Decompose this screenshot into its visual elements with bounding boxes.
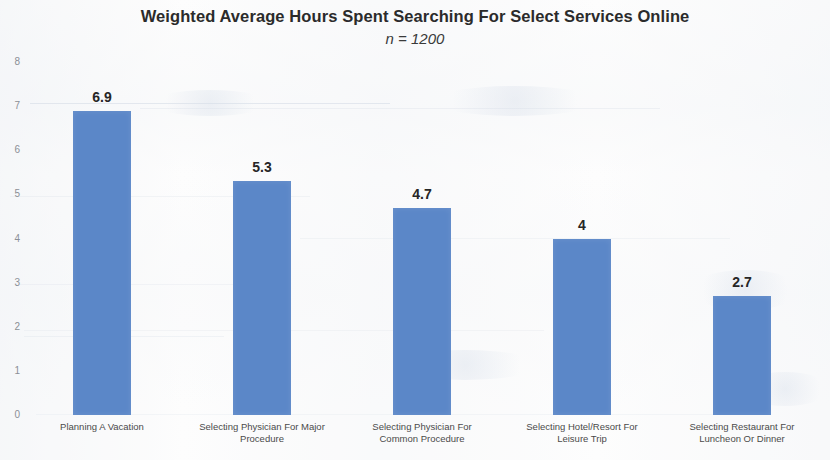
x-axis-category-label: Selecting Physician ForCommon Procedure xyxy=(338,421,506,445)
bar-chart-figure: Weighted Average Hours Spent Searching F… xyxy=(0,0,830,460)
bar-group: 4 xyxy=(502,62,662,415)
bar[interactable] xyxy=(553,239,611,416)
y-axis-tick-label: 2 xyxy=(0,322,20,332)
category-label-line: Common Procedure xyxy=(338,433,506,445)
bar-group: 6.9 xyxy=(22,62,182,415)
category-label-line: Procedure xyxy=(178,433,346,445)
category-label-line: Leisure Trip xyxy=(498,433,666,445)
x-axis-category-label: Selecting Physician For MajorProcedure xyxy=(178,421,346,445)
y-axis-tick-label: 7 xyxy=(0,101,20,111)
y-axis: 876543210 xyxy=(0,62,20,415)
bar-group: 5.3 xyxy=(182,62,342,415)
category-label-line: Selecting Physician For xyxy=(338,421,506,433)
chart-title: Weighted Average Hours Spent Searching F… xyxy=(0,6,830,27)
category-label-line: Luncheon Or Dinner xyxy=(658,433,826,445)
bar-value-label: 5.3 xyxy=(182,160,342,175)
bar-value-label: 4 xyxy=(502,218,662,233)
bar-value-label: 2.7 xyxy=(662,275,822,290)
category-label-line: Planning A Vacation xyxy=(18,421,186,433)
y-axis-tick-label: 5 xyxy=(0,189,20,199)
bar-value-label: 6.9 xyxy=(22,90,182,105)
y-axis-tick-label: 6 xyxy=(0,145,20,155)
bars-layer: 6.95.34.742.7 xyxy=(22,62,822,415)
y-axis-tick-label: 3 xyxy=(0,278,20,288)
category-label-line: Selecting Physician For Major xyxy=(178,421,346,433)
chart-subtitle-sample-size: n = 1200 xyxy=(0,29,830,49)
x-axis-category-label: Selecting Hotel/Resort ForLeisure Trip xyxy=(498,421,666,445)
x-axis-category-labels: Planning A VacationSelecting Physician F… xyxy=(22,421,822,459)
bar[interactable] xyxy=(233,181,291,415)
x-axis-category-label: Planning A Vacation xyxy=(18,421,186,433)
chart-title-block: Weighted Average Hours Spent Searching F… xyxy=(0,6,830,49)
x-axis-category-label: Selecting Restaurant ForLuncheon Or Dinn… xyxy=(658,421,826,445)
bar[interactable] xyxy=(73,111,131,415)
category-label-line: Selecting Restaurant For xyxy=(658,421,826,433)
bar-group: 4.7 xyxy=(342,62,502,415)
category-label-line: Selecting Hotel/Resort For xyxy=(498,421,666,433)
y-axis-tick-label: 1 xyxy=(0,366,20,376)
y-axis-tick-label: 8 xyxy=(0,57,20,67)
bar-value-label: 4.7 xyxy=(342,187,502,202)
y-axis-tick-label: 0 xyxy=(0,410,20,420)
bar[interactable] xyxy=(393,208,451,415)
bar[interactable] xyxy=(713,296,771,415)
y-axis-tick-label: 4 xyxy=(0,234,20,244)
bar-group: 2.7 xyxy=(662,62,822,415)
